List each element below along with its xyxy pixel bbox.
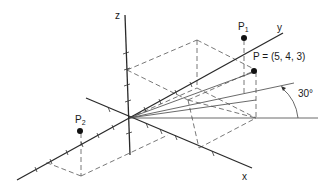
x-axis [86,98,252,168]
angle-arrowhead-icon [281,86,286,91]
y-axis-label: y [277,23,282,33]
angle-label: 30° [298,89,313,99]
point-p2-label: P2 [75,115,86,126]
3d-coordinate-diagram: z y x P = (5, 4, 3) P1 P2 30° [0,0,329,191]
origin-to-p-projection-line [129,100,256,118]
point-p2-label-sub: 2 [82,119,86,126]
point-p2-label-main: P [75,114,82,125]
axes [17,15,318,180]
point-p [251,68,257,74]
angle-arc [282,88,298,118]
point-p1-label-main: P [238,21,245,32]
y-axis [17,33,283,180]
point-p1-label-sub: 1 [245,26,249,33]
axis-ticks [35,52,214,172]
point-p-label: P = (5, 4, 3) [253,52,305,62]
point-p2 [77,128,83,134]
x-axis-label: x [242,172,247,182]
origin-to-p-line [129,72,254,118]
point-p1-label: P1 [238,22,249,33]
dashed-box [45,40,256,176]
z-axis-label: z [115,11,120,21]
point-p1 [241,35,247,41]
thirty-degree-line [129,83,294,118]
